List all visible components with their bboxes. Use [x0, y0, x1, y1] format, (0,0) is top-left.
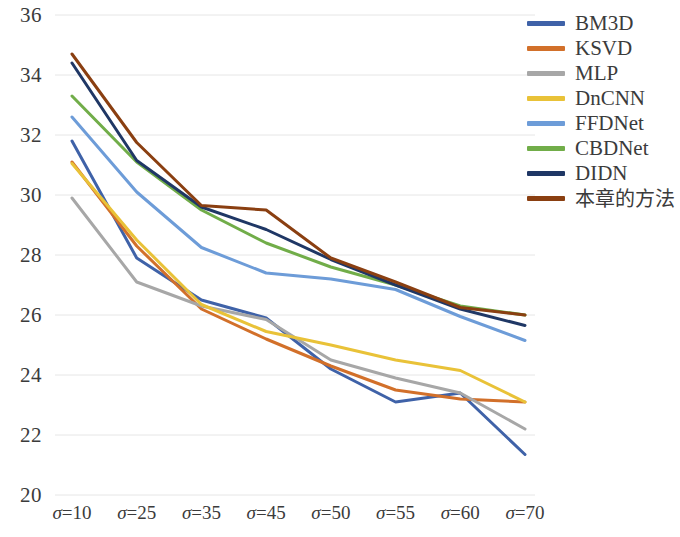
- legend-color-swatch: [527, 146, 565, 151]
- x-tick-label: σ=10: [52, 503, 91, 522]
- legend-color-swatch: [527, 96, 565, 101]
- legend-item[interactable]: BM3D: [527, 11, 677, 36]
- x-tick-label: σ=70: [505, 503, 544, 522]
- x-axis: σ=10σ=25σ=35σ=45σ=50σ=55σ=60σ=70: [55, 503, 535, 537]
- x-tick-label: σ=60: [441, 503, 480, 522]
- legend-label: KSVD: [575, 38, 632, 59]
- psnr-comparison-line-chart: 363432302826242220 σ=10σ=25σ=35σ=45σ=50σ…: [0, 0, 680, 537]
- data-series-layer: [55, 15, 535, 495]
- legend-item[interactable]: DIDN: [527, 161, 677, 186]
- x-tick-label: σ=35: [182, 503, 221, 522]
- legend-color-swatch: [527, 171, 565, 176]
- y-tick-label: 20: [20, 485, 42, 506]
- legend-color-swatch: [527, 71, 565, 76]
- y-tick-label: 28: [20, 245, 42, 266]
- plot-area: [55, 15, 535, 495]
- legend-label: MLP: [575, 63, 618, 84]
- legend-item[interactable]: MLP: [527, 61, 677, 86]
- legend-label: CBDNet: [575, 138, 649, 159]
- y-tick-label: 32: [20, 125, 42, 146]
- x-tick-label: σ=25: [117, 503, 156, 522]
- legend-item[interactable]: DnCNN: [527, 86, 677, 111]
- legend-label: DIDN: [575, 163, 628, 184]
- legend-label: 本章的方法: [575, 189, 675, 209]
- legend-color-swatch: [527, 46, 565, 51]
- y-tick-label: 22: [20, 425, 42, 446]
- legend-item[interactable]: 本章的方法: [527, 186, 677, 211]
- legend-label: FFDNet: [575, 113, 644, 134]
- y-tick-label: 30: [20, 185, 42, 206]
- legend-label: DnCNN: [575, 88, 645, 109]
- legend-item[interactable]: KSVD: [527, 36, 677, 61]
- legend-color-swatch: [527, 21, 565, 26]
- legend: BM3DKSVDMLPDnCNNFFDNetCBDNetDIDN本章的方法: [527, 11, 677, 211]
- y-tick-label: 36: [20, 5, 42, 26]
- legend-color-swatch: [527, 121, 565, 126]
- x-tick-label: σ=45: [247, 503, 286, 522]
- x-tick-label: σ=50: [311, 503, 350, 522]
- legend-color-swatch: [527, 196, 565, 201]
- legend-label: BM3D: [575, 13, 633, 34]
- x-tick-label: σ=55: [376, 503, 415, 522]
- legend-item[interactable]: FFDNet: [527, 111, 677, 136]
- series-line-bm3d: [72, 141, 525, 455]
- y-tick-label: 26: [20, 305, 42, 326]
- y-tick-label: 24: [20, 365, 42, 386]
- y-tick-label: 34: [20, 65, 42, 86]
- legend-item[interactable]: CBDNet: [527, 136, 677, 161]
- y-axis: 363432302826242220: [0, 0, 50, 537]
